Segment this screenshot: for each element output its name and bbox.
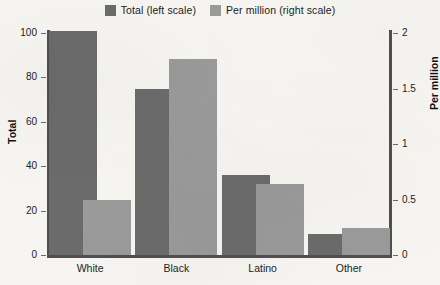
legend-swatch-total	[105, 5, 116, 16]
bar-per-million-other	[342, 228, 390, 255]
y-axis-right-spine	[389, 30, 392, 258]
y-axis-right-tick-label: 0	[402, 250, 408, 260]
x-axis-label-white: White	[77, 262, 104, 274]
y-axis-left-tick-mark	[41, 255, 46, 256]
y-axis-left-tick-label: 60	[26, 117, 37, 127]
y-axis-left-tick-label: 20	[26, 206, 37, 216]
y-axis-left-tick-mark	[41, 33, 46, 34]
y-axis-left-tick-mark	[41, 166, 46, 167]
bar-per-million-black	[169, 59, 217, 255]
y-axis-left-tick-mark	[41, 77, 46, 78]
y-axis-right-tick-mark	[393, 200, 398, 201]
y-axis-left-tick-label: 0	[31, 250, 37, 260]
y-axis-left-tick-label: 80	[26, 72, 37, 82]
y-axis-right-tick-mark	[393, 33, 398, 34]
y-axis-left-tick-label: 100	[20, 28, 37, 38]
y-axis-right-tick-mark	[393, 89, 398, 90]
y-axis-left-tick-mark	[41, 122, 46, 123]
y-axis-left-tick-mark	[41, 211, 46, 212]
legend-item-per-million: Per million (right scale)	[210, 4, 335, 16]
bar-per-million-latino	[256, 184, 304, 255]
legend-item-total: Total (left scale)	[105, 4, 196, 16]
y-axis-right-tick-label: 1.5	[402, 84, 416, 94]
y-axis-right-tick-label: 1	[402, 139, 408, 149]
x-axis-label-black: Black	[164, 262, 190, 274]
x-axis-label-other: Other	[336, 262, 362, 274]
y-axis-right-tick-label: 0.5	[402, 195, 416, 205]
y-axis-right-tick-mark	[393, 255, 398, 256]
y-axis-title-left: Total	[6, 120, 18, 144]
y-axis-left-tick-label: 40	[26, 161, 37, 171]
y-axis-title-right: Per million	[428, 56, 440, 110]
x-axis-spine	[47, 255, 392, 258]
y-axis-right-tick-mark	[393, 144, 398, 145]
bar-per-million-white	[83, 200, 131, 256]
legend-swatch-per-million	[210, 5, 221, 16]
chart-legend: Total (left scale) Per million (right sc…	[0, 2, 440, 18]
plot-area: 020406080100 00.511.52	[47, 30, 392, 258]
legend-label-total: Total (left scale)	[121, 4, 196, 16]
y-axis-right-tick-label: 2	[402, 28, 408, 38]
chart-figure: Total (left scale) Per million (right sc…	[0, 0, 440, 285]
legend-label-per-million: Per million (right scale)	[226, 4, 335, 16]
x-axis-label-latino: Latino	[248, 262, 277, 274]
